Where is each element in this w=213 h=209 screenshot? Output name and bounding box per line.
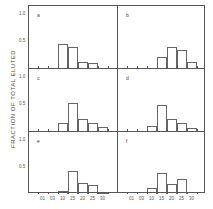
- histogram-panel-a: a: [28, 5, 117, 68]
- histogram-bar: [167, 47, 177, 68]
- histogram-bar: [177, 50, 187, 68]
- histogram-bar: [167, 119, 177, 131]
- histogram-bar: [88, 185, 98, 194]
- y-tick-label: 1.0: [19, 74, 25, 79]
- y-tick-label: 0.5: [19, 101, 25, 106]
- histogram-bar: [177, 179, 187, 194]
- x-tick-mark: [68, 192, 69, 194]
- histogram-panel-b: b: [117, 5, 205, 68]
- x-tick-label: 25: [179, 196, 184, 201]
- x-tick-label: 10: [60, 196, 65, 201]
- x-tick-mark: [127, 192, 128, 194]
- x-tick-label: 10: [149, 196, 154, 201]
- x-tick-mark: [88, 192, 89, 194]
- panel-label: c: [37, 75, 40, 81]
- histogram-bar: [78, 119, 88, 131]
- panel-label: a: [37, 12, 40, 18]
- histogram-panel-d: d: [117, 68, 205, 131]
- y-tick-label: 1.0: [19, 11, 25, 16]
- x-tick-label: 15: [159, 196, 164, 201]
- x-tick-label: 25: [90, 196, 95, 201]
- x-tick-mark: [197, 192, 198, 194]
- x-tick-mark: [147, 192, 148, 194]
- histogram-bar: [167, 184, 177, 194]
- x-tick-label: 20: [169, 196, 174, 201]
- x-tick-mark: [137, 192, 138, 194]
- x-tick-label: 03: [139, 196, 144, 201]
- histogram-bar: [98, 193, 108, 194]
- histogram-bar: [58, 123, 68, 131]
- histogram-bar: [58, 191, 68, 194]
- histogram-panel-f: f: [117, 131, 205, 194]
- x-tick-mark: [58, 192, 59, 194]
- x-tick-mark: [167, 192, 168, 194]
- y-axis-label: FRACTION OF TOTAL ELUTED: [10, 58, 16, 148]
- x-tick-label: 01: [129, 196, 134, 201]
- x-tick-label: 01: [40, 196, 45, 201]
- histogram-panel-c: c: [28, 68, 117, 131]
- y-tick-label: 0.5: [19, 164, 25, 169]
- histogram-bar: [177, 123, 187, 131]
- x-tick-mark: [48, 192, 49, 194]
- x-tick-mark: [98, 192, 99, 194]
- histogram-bar: [68, 47, 78, 68]
- histogram-bar: [157, 57, 167, 68]
- histogram-bar: [68, 171, 78, 194]
- x-tick-mark: [177, 192, 178, 194]
- x-tick-label: 20: [80, 196, 85, 201]
- x-tick-label: 03: [50, 196, 55, 201]
- histogram-bar: [157, 173, 167, 194]
- histogram-bar: [58, 44, 68, 68]
- x-tick-mark: [157, 192, 158, 194]
- x-tick-label: 30: [189, 196, 194, 201]
- histogram-bar: [147, 188, 157, 194]
- y-tick-label: 0.5: [19, 38, 25, 43]
- x-tick-mark: [108, 192, 109, 194]
- panel-label: f: [126, 138, 127, 144]
- panel-label: e: [37, 138, 40, 144]
- x-tick-mark: [187, 192, 188, 194]
- panel-label: b: [126, 12, 129, 18]
- histogram-bar: [157, 105, 167, 131]
- histogram-bar: [88, 123, 98, 131]
- x-tick-label: 30: [100, 196, 105, 201]
- x-tick-mark: [78, 192, 79, 194]
- histogram-panel-e: e: [28, 131, 117, 194]
- histogram-bar: [68, 103, 78, 131]
- x-tick-label: 15: [70, 196, 75, 201]
- histogram-bar: [78, 183, 88, 194]
- panel-label: d: [126, 75, 129, 81]
- y-tick-label: 1.0: [19, 137, 25, 142]
- x-tick-mark: [38, 192, 39, 194]
